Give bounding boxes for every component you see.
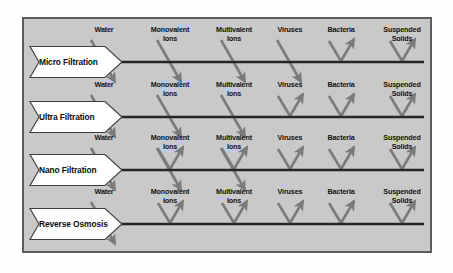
species-label-2-5: Suspended Solids [383,134,420,151]
arrow-reject-0-4 [341,39,354,61]
arrow-reject-3-3 [290,201,303,223]
species-label-2-1: Monovalent Ions [151,134,189,151]
arrow-incoming-1-5 [390,96,402,116]
species-label-0-1: Monovalent Ions [151,26,189,43]
species-label-3-3: Viruses [278,188,303,197]
arrow-incoming-3-4 [329,203,341,223]
stage-label-3: Reverse Osmosis [39,219,108,229]
species-label-1-4: Bacteria [327,81,354,90]
arrow-incoming-3-3 [278,203,290,223]
species-label-1-3: Viruses [278,81,303,90]
arrow-incoming-2-3 [278,149,290,169]
arrow-reject-2-4 [341,147,354,169]
stage-label-0: Micro Filtration [39,57,98,67]
species-label-2-2: Multivalent Ions [216,134,252,151]
species-label-0-5: Suspended Solids [383,26,420,43]
species-label-2-0: Water [95,134,114,143]
species-label-2-4: Bacteria [327,134,354,143]
species-label-3-4: Bacteria [327,188,354,197]
arrow-incoming-2-2 [222,149,234,169]
arrow-incoming-3-5 [390,203,402,223]
species-label-3-1: Monovalent Ions [151,188,189,205]
arrow-incoming-3-1 [158,203,170,223]
arrow-reject-3-4 [341,201,354,223]
arrow-incoming-0-5 [390,41,402,61]
arrow-incoming-2-5 [390,149,402,169]
species-label-0-3: Viruses [278,26,303,35]
species-label-0-2: Multivalent Ions [216,26,252,43]
arrow-reject-1-4 [341,94,354,116]
species-label-0-0: Water [95,26,114,35]
arrow-incoming-2-4 [329,149,341,169]
arrow-reject-2-3 [290,147,303,169]
species-label-1-5: Suspended Solids [383,81,420,98]
species-label-1-1: Monovalent Ions [151,81,189,98]
stage-label-1: Ultra Filtration [39,112,95,122]
species-label-0-4: Bacteria [327,26,354,35]
filtration-spectrum-figure: WaterMonovalent IonsMultivalent IonsViru… [0,0,453,273]
species-label-1-2: Multivalent Ions [216,81,252,98]
species-label-2-3: Viruses [278,134,303,143]
arrow-reject-1-3 [290,94,303,116]
species-label-3-0: Water [95,188,114,197]
species-arrow-layer [91,39,415,244]
stage-banner-layer [30,47,122,240]
arrow-incoming-1-3 [278,96,290,116]
stage-label-2: Nano Filtration [39,165,97,175]
species-label-3-5: Suspended Solids [383,188,420,205]
arrow-incoming-2-1 [158,149,170,169]
arrow-incoming-0-4 [329,41,341,61]
species-label-1-0: Water [95,81,114,90]
arrow-incoming-3-2 [222,203,234,223]
species-label-3-2: Multivalent Ions [216,188,252,205]
arrow-incoming-1-4 [329,96,341,116]
